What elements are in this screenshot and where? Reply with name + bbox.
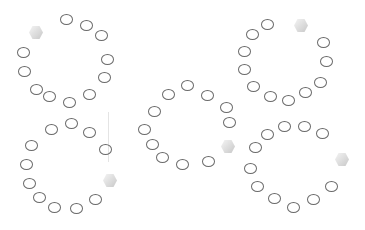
ring-icon — [251, 181, 264, 192]
ring-icon — [83, 89, 96, 100]
ring-icon — [95, 30, 108, 41]
ring-icon — [220, 102, 233, 113]
ring-icon — [20, 159, 33, 170]
hexagon-icon — [29, 26, 43, 39]
ring-icon — [298, 121, 311, 132]
ring-icon — [146, 139, 159, 150]
ring-icon — [238, 64, 251, 75]
ring-icon — [162, 89, 175, 100]
ring-icon — [30, 84, 43, 95]
ring-canvas — [0, 0, 365, 230]
ring-icon — [156, 152, 169, 163]
ring-icon — [17, 47, 30, 58]
ring-icon — [65, 118, 78, 129]
ring-icon — [48, 202, 61, 213]
hexagon-icon — [335, 153, 349, 166]
ring-icon — [148, 106, 161, 117]
ring-icon — [201, 90, 214, 101]
ring-icon — [70, 203, 83, 214]
ring-icon — [18, 66, 31, 77]
ring-icon — [307, 194, 320, 205]
ring-icon — [268, 193, 281, 204]
ring-icon — [138, 124, 151, 135]
ring-icon — [99, 144, 112, 155]
ring-icon — [25, 140, 38, 151]
hexagon-icon — [294, 19, 308, 32]
ring-icon — [33, 192, 46, 203]
ring-icon — [249, 142, 262, 153]
ring-icon — [223, 117, 236, 128]
ring-icon — [299, 87, 312, 98]
ring-icon — [23, 178, 36, 189]
ring-icon — [261, 19, 274, 30]
ring-icon — [176, 159, 189, 170]
ring-icon — [60, 14, 73, 25]
ring-icon — [314, 77, 327, 88]
ring-icon — [320, 56, 333, 67]
ring-icon — [181, 80, 194, 91]
ring-icon — [317, 37, 330, 48]
ring-icon — [247, 81, 260, 92]
ring-icon — [264, 91, 277, 102]
hexagon-icon — [221, 140, 235, 153]
ring-icon — [83, 127, 96, 138]
ring-icon — [287, 202, 300, 213]
ring-icon — [261, 129, 274, 140]
ring-icon — [89, 194, 102, 205]
ring-icon — [244, 163, 257, 174]
ring-icon — [238, 46, 251, 57]
ring-icon — [325, 181, 338, 192]
ring-icon — [43, 91, 56, 102]
ring-icon — [202, 156, 215, 167]
ring-icon — [246, 29, 259, 40]
ring-icon — [80, 20, 93, 31]
ring-icon — [278, 121, 291, 132]
ring-icon — [98, 72, 111, 83]
ring-icon — [101, 54, 114, 65]
ring-icon — [45, 124, 58, 135]
ring-icon — [316, 128, 329, 139]
ring-icon — [63, 97, 76, 108]
ring-icon — [282, 95, 295, 106]
hexagon-icon — [103, 174, 117, 187]
